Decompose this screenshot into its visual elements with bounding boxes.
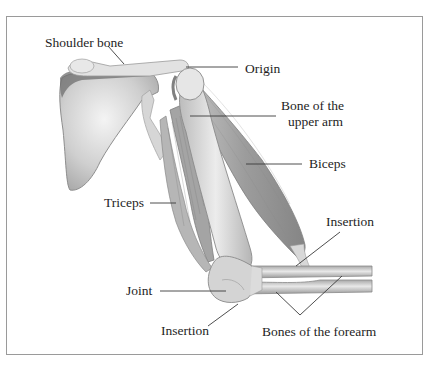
leader-forearm-a (276, 292, 300, 315)
label-bone-upper-arm-line2: upper arm (288, 114, 343, 129)
label-insertion-triceps: Insertion (161, 323, 209, 338)
shoulder-blade (60, 72, 159, 190)
label-bones-forearm: Bones of the forearm (262, 324, 376, 339)
label-insertion-biceps: Insertion (326, 214, 374, 229)
elbow-joint (208, 256, 254, 302)
label-triceps: Triceps (104, 195, 144, 210)
humeral-head (176, 68, 204, 100)
label-biceps: Biceps (309, 156, 346, 171)
label-origin: Origin (245, 61, 280, 76)
label-bone-upper-arm-line1: Bone of the (281, 98, 344, 113)
acromion-knob (70, 59, 94, 73)
label-shoulder-bone: Shoulder bone (45, 35, 123, 50)
arm-illustration (0, 0, 444, 378)
leader-insertion-triceps (208, 304, 238, 326)
label-joint: Joint (126, 283, 152, 298)
